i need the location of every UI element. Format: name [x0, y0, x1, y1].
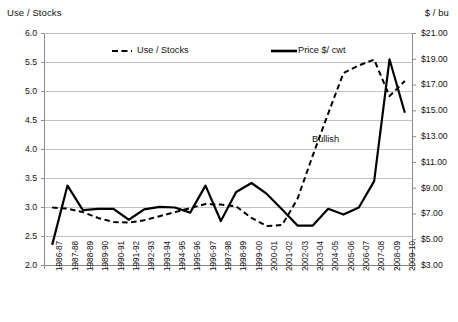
annotation-bullish: Bullish — [312, 134, 339, 144]
series-line-use-stocks — [52, 60, 405, 226]
secondary-axis-tick: $19.00 — [421, 55, 458, 64]
legend-label-use-stocks: Use / Stocks — [137, 45, 189, 55]
series-line-price — [52, 59, 405, 245]
category-tick: 2009-10 — [409, 240, 417, 270]
secondary-axis-tick: $15.00 — [421, 106, 458, 115]
secondary-axis-title: $ / bu — [425, 7, 449, 18]
secondary-axis-tick: $21.00 — [421, 29, 458, 38]
category-tick: 2004-05 — [332, 240, 340, 270]
primary-axis-tick: 4.5 — [11, 116, 37, 125]
primary-axis-tick: 3.0 — [11, 203, 37, 212]
category-tick: 1998-99 — [240, 240, 248, 270]
category-tick: 1989-90 — [102, 240, 110, 270]
category-tick: 1987-88 — [72, 240, 80, 270]
chart-container: Use / Stocks $ / bu 2.02.53.03.54.04.55.… — [0, 0, 458, 322]
gridlines — [45, 34, 413, 266]
primary-axis-tick: 6.0 — [11, 29, 37, 38]
primary-axis-title: Use / Stocks — [7, 7, 62, 18]
category-tick: 2006-07 — [363, 240, 371, 270]
category-tick: 1986-87 — [56, 240, 64, 270]
category-tick: 1993-94 — [164, 240, 172, 270]
category-tick: 1996-97 — [210, 240, 218, 270]
plot-area — [0, 0, 458, 322]
category-tick: 1992-93 — [148, 240, 156, 270]
category-tick: 1988-89 — [87, 240, 95, 270]
category-tick: 1991-92 — [133, 240, 141, 270]
tick-marks — [41, 34, 416, 270]
category-tick: 2008-09 — [394, 240, 402, 270]
primary-axis-tick: 5.5 — [11, 58, 37, 67]
category-tick: 2002-03 — [302, 240, 310, 270]
category-tick: 1995-96 — [194, 240, 202, 270]
category-tick: 1994-95 — [179, 240, 187, 270]
secondary-axis-tick: $3.00 — [421, 261, 458, 270]
secondary-axis-tick: $7.00 — [421, 209, 458, 218]
category-tick: 2007-08 — [378, 240, 386, 270]
category-tick: 2003-04 — [317, 240, 325, 270]
secondary-axis-tick: $9.00 — [421, 184, 458, 193]
primary-axis-tick: 2.5 — [11, 232, 37, 241]
category-tick: 1999-00 — [256, 240, 264, 270]
primary-axis-tick: 2.0 — [11, 261, 37, 270]
legend-label-price: Price $/ cwt — [298, 45, 345, 55]
category-tick: 2000-01 — [271, 240, 279, 270]
secondary-axis-tick: $5.00 — [421, 235, 458, 244]
series-lines — [52, 59, 405, 245]
secondary-axis-tick: $11.00 — [421, 158, 458, 167]
secondary-axis-tick: $17.00 — [421, 80, 458, 89]
primary-axis-tick: 4.0 — [11, 145, 37, 154]
category-tick: 2001-02 — [286, 240, 294, 270]
primary-axis-tick: 3.5 — [11, 174, 37, 183]
primary-axis-tick: 5.0 — [11, 87, 37, 96]
secondary-axis-tick: $13.00 — [421, 132, 458, 141]
category-tick: 1990-91 — [118, 240, 126, 270]
category-tick: 2005-06 — [348, 240, 356, 270]
category-tick: 1997-98 — [225, 240, 233, 270]
